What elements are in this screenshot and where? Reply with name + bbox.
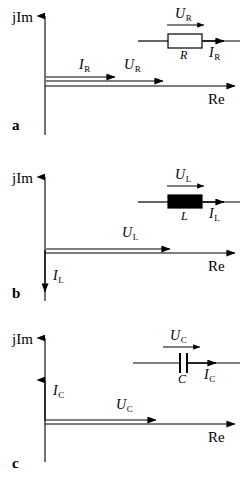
phasor-label-current-a: IR — [79, 58, 90, 72]
schematic-designator-b: L — [181, 210, 188, 222]
schematic-current-label-c: IC — [204, 368, 215, 382]
schematic-current-label-a: IR — [209, 46, 220, 60]
panel-letter-c: c — [12, 456, 19, 471]
schematic-inductor — [138, 186, 240, 208]
axis-label-real-c: Re — [208, 430, 225, 445]
phasor-panel-inductor: jIm Re UL IL UL L IL b — [0, 161, 248, 322]
schematic-voltage-label-a: UR — [175, 7, 191, 21]
schematic-capacitor — [133, 347, 240, 373]
phasor-label-voltage-c: UC — [116, 398, 132, 412]
phasor-panel-capacitor: jIm Re IC UC UC C IC c — [0, 322, 248, 483]
schematic-current-label-b: IL — [209, 207, 219, 221]
schematic-designator-a: R — [180, 49, 187, 61]
axis-label-imaginary-a: jIm — [12, 10, 33, 25]
panel-letter-a: a — [12, 118, 20, 133]
phasor-panel-resistor: jIm Re IR UR UR R IR a — [0, 0, 248, 161]
schematic-designator-c: C — [178, 373, 186, 385]
phasor-label-current-b: IL — [53, 269, 63, 283]
phasor-label-voltage-a: UR — [124, 58, 140, 72]
axis-label-imaginary-b: jIm — [12, 171, 33, 186]
phasor-label-current-c: IC — [53, 384, 64, 398]
schematic-resistor — [138, 25, 240, 48]
axis-label-real-b: Re — [208, 259, 225, 274]
schematic-voltage-label-c: UC — [170, 329, 186, 343]
axis-label-imaginary-c: jIm — [12, 332, 33, 347]
schematic-voltage-label-b: UL — [175, 168, 191, 182]
panel-a-graphic — [0, 0, 248, 161]
axis-label-real-a: Re — [208, 92, 225, 107]
panel-letter-b: b — [12, 286, 20, 301]
panel-b-graphic — [0, 161, 248, 322]
phasor-label-voltage-b: UL — [122, 226, 138, 240]
